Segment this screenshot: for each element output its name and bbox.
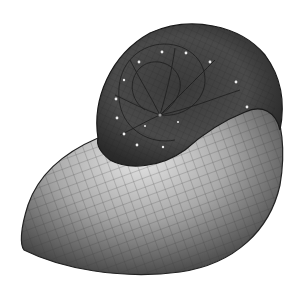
nautilus-shell-image (0, 0, 302, 293)
nautilus-shell-graphic (0, 0, 302, 293)
